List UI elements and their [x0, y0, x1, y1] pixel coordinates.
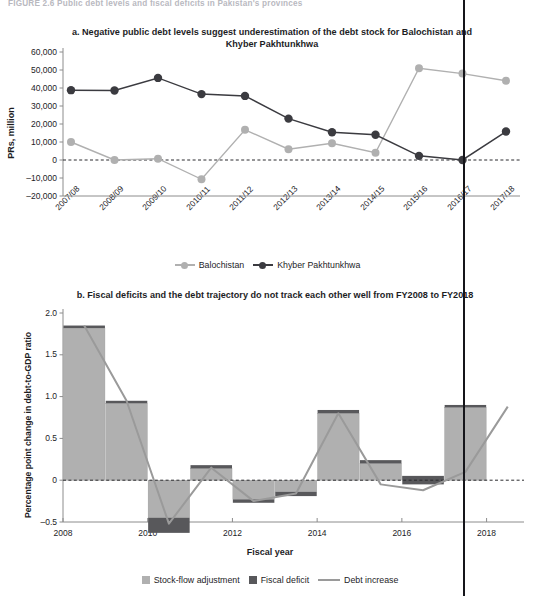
- legend-line-icon: [318, 579, 340, 581]
- legend-swatch-icon: [249, 576, 257, 584]
- legend-label: Fiscal deficit: [261, 575, 309, 585]
- page-cut-line: [463, 0, 465, 596]
- legend-item: Stock-flow adjustment: [142, 575, 240, 585]
- panel-b-bar-fiscal-deficit: [445, 405, 487, 408]
- panel-b-bar-stock-flow-adjustment: [318, 413, 360, 480]
- panel-b-line-debt-increase: [84, 326, 508, 524]
- legend-item: Debt increase: [318, 575, 398, 585]
- figure-root: FIGURE 2.6 Public debt levels and fiscal…: [0, 0, 535, 596]
- legend-item: Fiscal deficit: [249, 575, 309, 585]
- panel-b-bar-stock-flow-adjustment: [360, 463, 402, 480]
- panel-b-legend: Stock-flow adjustmentFiscal deficitDebt …: [85, 573, 455, 587]
- panel-b-bar-fiscal-deficit: [148, 518, 190, 533]
- panel-b-bar-stock-flow-adjustment: [445, 407, 487, 480]
- panel-b-plot: [0, 0, 535, 596]
- panel-b-bar-stock-flow-adjustment: [148, 480, 190, 518]
- legend-label: Stock-flow adjustment: [154, 575, 240, 585]
- legend-swatch-icon: [142, 576, 150, 584]
- legend-label: Debt increase: [344, 575, 398, 585]
- panel-b-bar-stock-flow-adjustment: [275, 480, 317, 492]
